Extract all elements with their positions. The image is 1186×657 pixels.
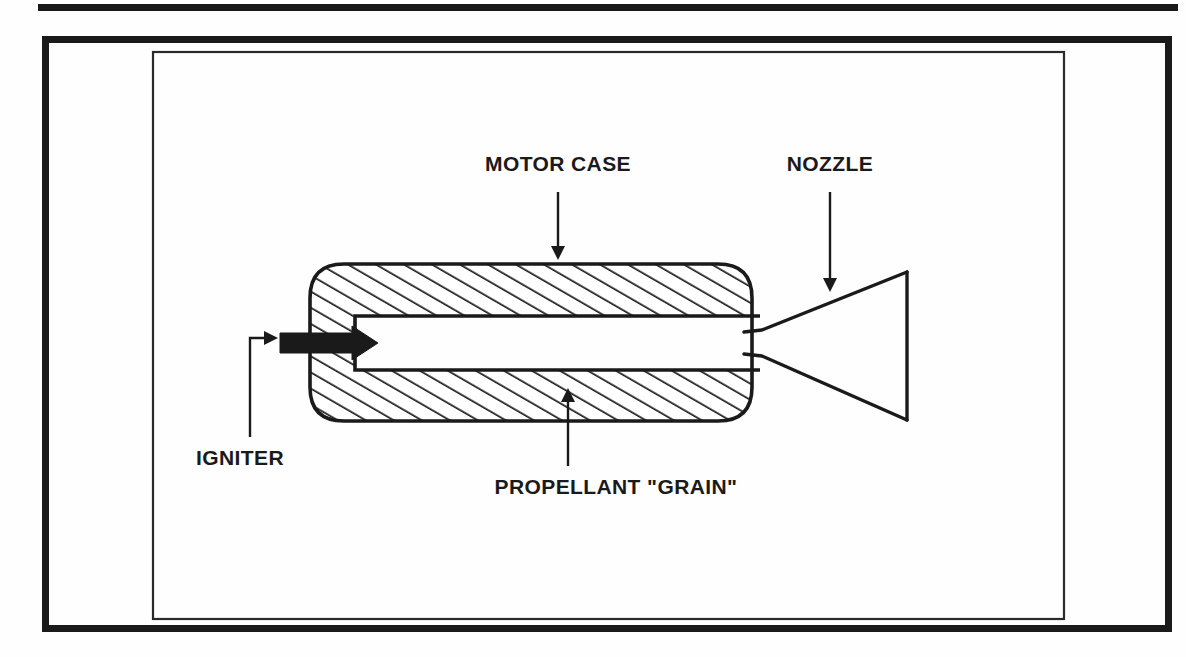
nozzle-label: NOZZLE <box>787 152 873 175</box>
outer-frame <box>46 40 1169 629</box>
callout-nozzle: NOZZLE <box>787 152 873 292</box>
rocket-motor-diagram: MOTOR CASE NOZZLE IGNITER PROPELLANT "GR… <box>0 0 1186 657</box>
figure-page: MOTOR CASE NOZZLE IGNITER PROPELLANT "GR… <box>0 0 1186 657</box>
propellant-grain-label: PROPELLANT "GRAIN" <box>495 475 738 498</box>
nozzle-arrowhead <box>823 278 837 292</box>
top-rule <box>38 4 1178 11</box>
motor-case-arrowhead <box>551 246 565 260</box>
igniter-arrowhead <box>264 331 278 345</box>
nozzle-lower-wall <box>744 354 907 420</box>
callout-igniter: IGNITER <box>196 331 284 469</box>
igniter-label: IGNITER <box>196 446 284 469</box>
grain-bore-outline <box>355 316 760 370</box>
nozzle-body <box>744 272 907 420</box>
igniter-leader-line <box>250 338 266 437</box>
motor-case-label: MOTOR CASE <box>485 152 631 175</box>
callout-motor-case: MOTOR CASE <box>485 152 631 260</box>
